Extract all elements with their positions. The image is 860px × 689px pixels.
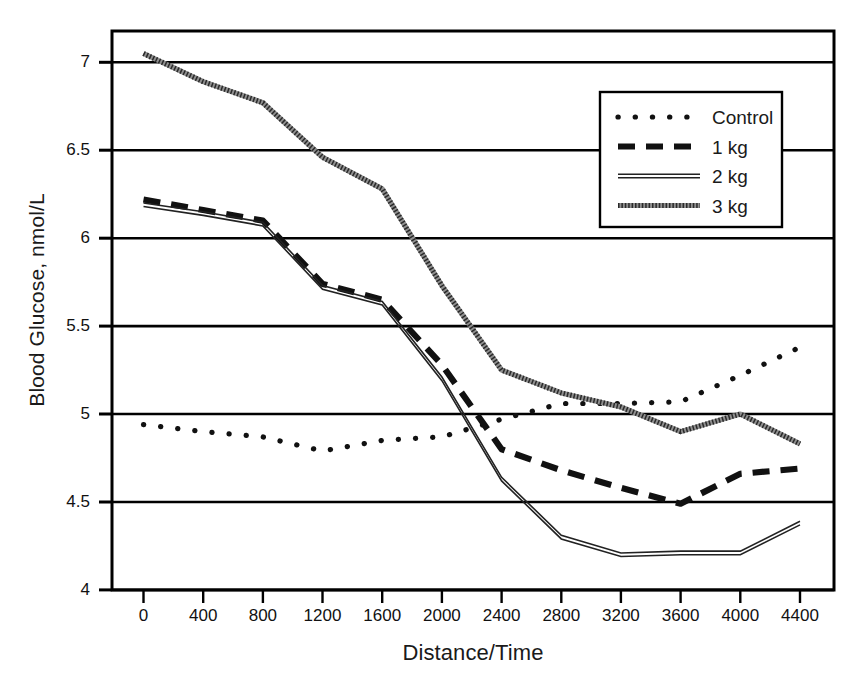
x-tick-label-400: 400 — [189, 606, 217, 626]
x-tick-label-2800: 2800 — [542, 606, 580, 626]
y-tick-label-6-5: 6.5 — [46, 140, 90, 160]
x-tick-label-3600: 3600 — [662, 606, 700, 626]
legend: Control1 kg2 kg3 kg — [600, 92, 782, 227]
x-tick-label-4400: 4400 — [781, 606, 819, 626]
x-tick-label-3200: 3200 — [602, 606, 640, 626]
x-tick-label-2400: 2400 — [483, 606, 521, 626]
y-tick-label-5: 5 — [46, 404, 90, 424]
x-tick-label-0: 0 — [139, 606, 148, 626]
x-tick-label-1200: 1200 — [304, 606, 342, 626]
y-tick-label-6: 6 — [46, 228, 90, 248]
x-tick-label-2000: 2000 — [423, 606, 461, 626]
legend-label-control: Control — [712, 107, 773, 128]
blood-glucose-line-chart: Control1 kg2 kg3 kg — [0, 0, 860, 689]
x-axis-title: Distance/Time — [112, 640, 834, 666]
legend-label-3-kg: 3 kg — [712, 196, 748, 217]
x-tick-label-800: 800 — [249, 606, 277, 626]
y-tick-label-4-5: 4.5 — [46, 492, 90, 512]
y-tick-label-5-5: 5.5 — [46, 316, 90, 336]
chart-container: Control1 kg2 kg3 kg 7 6.5 6 5.5 5 4.5 4 … — [0, 0, 860, 689]
x-tick-label-4000: 4000 — [721, 606, 759, 626]
y-tick-label-7: 7 — [46, 52, 90, 72]
legend-label-2-kg: 2 kg — [712, 166, 748, 187]
x-tick-label-1600: 1600 — [363, 606, 401, 626]
y-axis-title: Blood Glucose, nmol/L — [25, 120, 49, 480]
y-tick-label-4: 4 — [46, 580, 90, 600]
legend-label-1-kg: 1 kg — [712, 137, 748, 158]
